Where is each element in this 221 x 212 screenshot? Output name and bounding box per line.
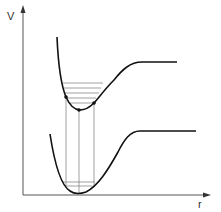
potential-energy-diagram: V r <box>0 0 221 212</box>
excited-state-curve <box>57 37 177 110</box>
minimum-marker <box>77 108 81 112</box>
y-axis-arrow-icon <box>21 5 26 13</box>
ground-state-curve <box>50 131 196 193</box>
turning-point-marker <box>64 95 68 99</box>
x-axis-label: r <box>198 198 202 210</box>
x-axis-arrow-icon <box>203 193 211 198</box>
turning-point-marker <box>92 101 96 105</box>
y-axis-label: V <box>7 10 15 22</box>
